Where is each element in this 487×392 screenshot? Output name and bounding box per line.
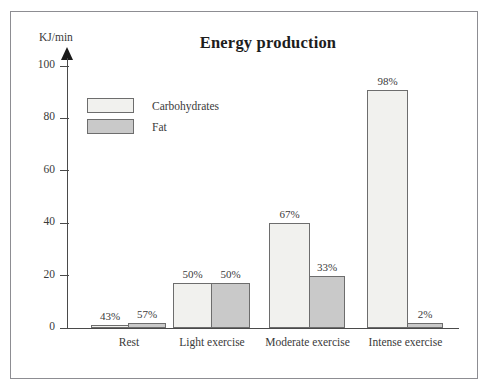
- bar-carbohydrates-1: [173, 283, 212, 328]
- y-axis-tick-label-80: 80: [15, 110, 55, 122]
- legend-item-carbohydrates: Carbohydrates: [87, 97, 219, 114]
- y-axis-label: KJ/min: [39, 31, 73, 43]
- y-axis-tick-80: [60, 118, 69, 119]
- chart-title: Energy production: [11, 33, 479, 53]
- chart-legend: CarbohydratesFat: [87, 97, 219, 139]
- bar-value-label-fat-1: 50%: [209, 268, 253, 280]
- plot-area: Energy production KJ/min 020406080100 Ca…: [11, 12, 479, 380]
- bar-carbohydrates-2: [269, 223, 310, 328]
- chart-frame: Energy production KJ/min 020406080100 Ca…: [10, 11, 478, 379]
- bar-value-label-carbohydrates-3: 98%: [366, 75, 410, 87]
- x-axis-category-label-3: Intense exercise: [341, 336, 471, 348]
- y-axis-tick-100: [60, 66, 69, 67]
- legend-label-fat: Fat: [152, 121, 167, 133]
- legend-swatch-fat: [87, 119, 134, 134]
- bar-carbohydrates-3: [367, 90, 408, 328]
- y-axis-line: [67, 58, 68, 329]
- y-axis-tick-40: [60, 223, 69, 224]
- y-axis-tick-label-20: 20: [15, 268, 55, 280]
- legend-label-carbohydrates: Carbohydrates: [152, 100, 219, 112]
- bar-value-label-fat-3: 2%: [403, 308, 447, 320]
- legend-item-fat: Fat: [87, 118, 219, 135]
- bar-carbohydrates-0: [91, 325, 129, 328]
- y-axis-tick-label-40: 40: [15, 215, 55, 227]
- bar-value-label-fat-2: 33%: [305, 261, 349, 273]
- y-axis-tick-label-0: 0: [15, 320, 55, 332]
- y-axis-tick-label-60: 60: [15, 163, 55, 175]
- y-axis-tick-60: [60, 170, 69, 171]
- bar-value-label-carbohydrates-2: 67%: [268, 208, 312, 220]
- bar-fat-3: [407, 323, 443, 328]
- legend-swatch-carbohydrates: [87, 98, 134, 113]
- x-axis-line: [67, 328, 459, 329]
- bar-fat-1: [211, 283, 250, 328]
- bar-value-label-fat-0: 57%: [125, 308, 169, 320]
- y-axis-tick-20: [60, 275, 69, 276]
- bar-fat-0: [128, 323, 166, 328]
- y-axis-tick-label-100: 100: [15, 58, 55, 70]
- bar-fat-2: [309, 276, 345, 328]
- y-axis-tick-0: [60, 328, 69, 329]
